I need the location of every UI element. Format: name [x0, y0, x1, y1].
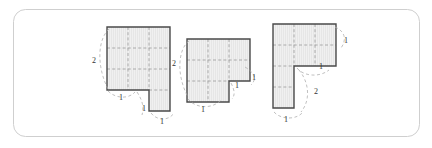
dimension-label-1-step-right: 1 [252, 73, 256, 82]
figure-screenshot: 211121111121 [0, 0, 432, 148]
dimension-label-2-lower-right: 2 [314, 87, 318, 96]
dimension-label-1-step-vertical: 1 [235, 81, 239, 90]
dimension-label-1-inner-vertical: 1 [142, 104, 146, 113]
dimension-label-1-bottom-left: 1 [119, 93, 123, 102]
dimension-label-1-right: 1 [344, 36, 348, 45]
dimension-label-1-bottom-right: 1 [160, 117, 164, 126]
dimension-label-1-inner-corner: 1 [319, 62, 323, 71]
dimension-label-2-left: 2 [92, 56, 96, 65]
geometry-figure: 211121111121 [0, 0, 432, 148]
dimension-label-2-left: 2 [172, 59, 176, 68]
dimension-label-1-bottom: 1 [201, 105, 205, 114]
dimension-label-1-bottom: 1 [284, 115, 288, 124]
